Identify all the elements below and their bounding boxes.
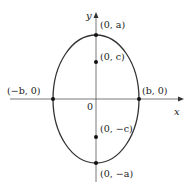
x-axis-label: x <box>174 106 180 117</box>
right-vertex-label: (b, 0) <box>142 85 168 96</box>
top-vertex-label: (0, a) <box>100 19 125 30</box>
y-axis-arrow-icon <box>94 12 99 18</box>
y-axis-label: y <box>85 10 92 21</box>
top-focus-point <box>94 60 98 64</box>
ellipse-diagram: y x 0 (0, a) (0, c) (−b, 0) (b, 0) (0, −… <box>0 0 191 192</box>
x-axis-arrow-icon <box>178 97 184 102</box>
bottom-vertex-label: (0, −a) <box>100 168 133 179</box>
left-vertex-label: (−b, 0) <box>7 85 41 96</box>
top-vertex-point <box>94 33 98 37</box>
origin-label: 0 <box>87 101 93 112</box>
bottom-focus-point <box>94 135 98 139</box>
left-vertex-point <box>51 97 55 101</box>
top-focus-label: (0, c) <box>100 51 125 62</box>
bottom-focus-label: (0, −c) <box>100 123 133 134</box>
bottom-vertex-point <box>94 161 98 165</box>
right-vertex-point <box>137 97 141 101</box>
